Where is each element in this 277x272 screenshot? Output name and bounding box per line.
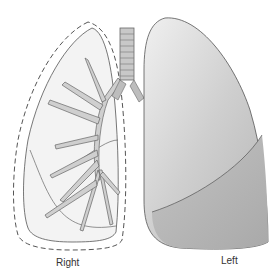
left-lung-label: Left bbox=[221, 255, 238, 266]
lung-diagram bbox=[0, 0, 277, 272]
right-lung bbox=[24, 28, 119, 242]
right-lung-label: Right bbox=[56, 257, 79, 268]
left-lung bbox=[144, 18, 268, 249]
